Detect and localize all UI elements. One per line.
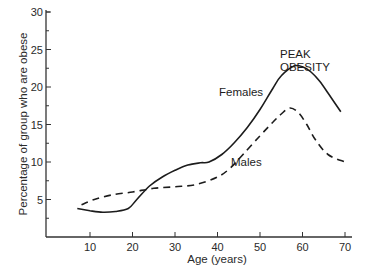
y-tick-label: 15: [31, 119, 43, 131]
y-tick-label: 25: [31, 44, 43, 56]
x-tick-label: 10: [84, 241, 96, 253]
y-tick-label: 10: [31, 156, 43, 168]
x-tick-label: 70: [339, 241, 351, 253]
females-label: Females: [219, 86, 263, 98]
x-tick-label: 30: [169, 241, 181, 253]
x-tick-label: 60: [296, 241, 308, 253]
males-line: [82, 108, 346, 205]
y-axis-label: Percentage of group who are obese: [17, 33, 29, 216]
peak-label-line1: PEAK: [280, 48, 311, 60]
y-tick-label: 30: [31, 6, 43, 18]
males-label: Males: [231, 156, 262, 168]
y-tick-label: 5: [37, 194, 43, 206]
y-axis: 51015202530: [31, 6, 51, 237]
x-tick-label: 40: [211, 241, 223, 253]
x-axis: 10203040506070: [46, 232, 352, 253]
females-line: [77, 65, 341, 212]
obesity-by-age-chart: 51015202530 10203040506070 Age (years) P…: [0, 0, 370, 278]
x-tick-label: 50: [254, 241, 266, 253]
x-axis-label: Age (years): [187, 253, 247, 265]
x-tick-label: 20: [126, 241, 138, 253]
y-tick-label: 20: [31, 81, 43, 93]
peak-label-line2: OBESITY: [280, 61, 330, 73]
